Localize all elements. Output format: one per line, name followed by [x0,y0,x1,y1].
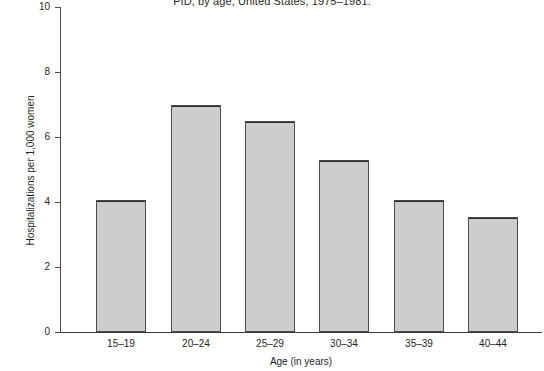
chart-title: PID, by age, United States, 1975–1981. [0,0,544,7]
y-axis-tick [55,72,61,73]
bar [171,105,221,333]
x-axis-tick-label: 40–44 [453,338,533,349]
y-axis-tick [55,202,61,203]
x-axis-line [60,332,542,333]
x-axis-tick-label: 25–29 [230,338,310,349]
y-axis-tick [55,267,61,268]
bar [468,217,518,332]
x-axis-tick-label: 15–19 [81,338,161,349]
bar [96,200,146,332]
y-axis-tick [55,7,61,8]
x-axis-tick-label: 35–39 [379,338,459,349]
bar [319,160,369,332]
y-axis-tick-label: 10 [28,2,50,12]
x-axis-tick-label: 30–34 [304,338,384,349]
bar-chart-figure: PID, by age, United States, 1975–1981. 0… [0,0,544,371]
bar [394,200,444,332]
x-axis-tick-label: 20–24 [156,338,236,349]
y-axis-tick [55,332,61,333]
y-axis-tick [55,137,61,138]
y-axis-title: Hospitalizations per 1,000 women [25,71,36,271]
y-axis-tick-label: 0 [28,327,50,337]
bar [245,121,295,332]
y-axis-line [60,7,61,333]
x-axis-title: Age (in years) [60,356,542,367]
